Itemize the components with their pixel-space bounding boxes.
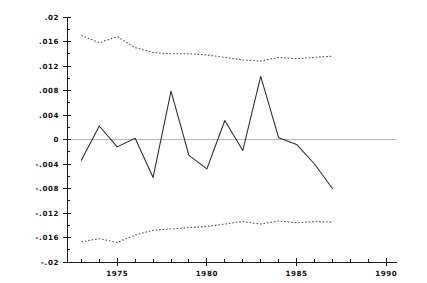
y-axis-tick-label: .012 [39,62,59,71]
x-axis-tick-labels: 1975198019851990 [106,269,397,278]
y-axis-tick-label: -.02 [41,258,59,267]
series-lower-band [81,221,332,242]
x-axis-tick-label: 1980 [196,269,218,278]
y-axis-tick-label: -.004 [36,160,59,169]
x-axis-tick-label: 1975 [106,269,128,278]
y-axis-tick-label: 0 [53,135,59,144]
line-chart: .02.016.012.008.0040-.004-.008-.012-.016… [0,0,427,283]
x-axis-tick-label: 1990 [375,269,397,278]
y-axis-tick-label: .004 [39,111,59,120]
y-axis-tick-label: .008 [39,86,59,95]
series-residual [81,76,332,188]
x-axis-tick-label: 1985 [285,269,307,278]
y-axis-tick-label: -.012 [36,209,59,218]
series-upper-band [81,35,332,61]
y-axis-tick-label: -.016 [36,233,59,242]
y-axis-tick-label: .02 [45,13,59,22]
chart-container: .02.016.012.008.0040-.004-.008-.012-.016… [0,0,427,283]
y-axis-tick-labels: .02.016.012.008.0040-.004-.008-.012-.016… [36,13,59,267]
y-axis-tick-label: -.008 [36,184,59,193]
series-layer [81,35,332,242]
y-axis-tick-label: .016 [39,37,59,46]
